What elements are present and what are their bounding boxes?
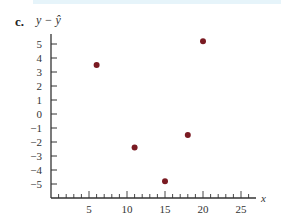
y-tick-label: 4 xyxy=(37,52,43,64)
y-tick-label: 1 xyxy=(37,94,43,106)
y-tick-label: −1 xyxy=(30,122,42,134)
data-point xyxy=(185,132,191,138)
data-point xyxy=(162,178,168,184)
data-point xyxy=(94,62,100,68)
y-tick-label: −5 xyxy=(30,178,42,190)
x-axis-label: x xyxy=(260,192,266,204)
y-tick-label: −3 xyxy=(30,150,42,162)
x-tick-label: 5 xyxy=(86,203,92,215)
x-tick-label: 15 xyxy=(160,203,172,215)
y-tick-label: 5 xyxy=(37,38,43,50)
x-tick-label: 10 xyxy=(122,203,134,215)
y-tick-label: −4 xyxy=(30,164,42,176)
data-point xyxy=(200,38,206,44)
y-tick-label: 2 xyxy=(37,80,43,92)
residual-scatter-plot: 543210−1−2−3−4−5510152025x xyxy=(0,0,281,223)
y-tick-label: 3 xyxy=(37,66,43,78)
y-tick-label: 0 xyxy=(37,108,43,120)
y-tick-label: −2 xyxy=(30,136,42,148)
x-tick-label: 20 xyxy=(198,203,210,215)
data-point xyxy=(132,145,138,151)
x-tick-label: 25 xyxy=(236,203,248,215)
